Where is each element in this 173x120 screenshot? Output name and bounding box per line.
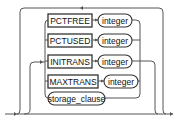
value-initrans: integer xyxy=(102,57,128,67)
value-pctfree: integer xyxy=(102,16,128,26)
entry-arrow-icon xyxy=(14,112,17,116)
entry-path xyxy=(24,62,45,114)
exit-arrow-icon xyxy=(170,112,173,116)
initrans-exit-path xyxy=(132,61,158,114)
row-pctused: PCTUSED integer xyxy=(48,34,132,47)
row-storage-clause: storage_clause xyxy=(48,92,106,105)
keyword-pctfree: PCTFREE xyxy=(50,16,90,26)
value-maxtrans: integer xyxy=(108,77,134,87)
row-initrans: INITRANS integer xyxy=(48,55,132,68)
keyword-initrans: INITRANS xyxy=(50,57,90,67)
value-pctused: integer xyxy=(102,36,128,46)
syntax-diagram: PCTFREE integer PCTUSED integer INITRANS… xyxy=(0,0,173,120)
keyword-pctused: PCTUSED xyxy=(50,36,91,46)
loop-arrow-icon xyxy=(80,6,83,10)
storage-clause-label: storage_clause xyxy=(48,94,106,104)
row-maxtrans: MAXTRANS integer xyxy=(48,75,138,88)
entry-branch-arrow-icon xyxy=(40,60,43,64)
row-pctfree: PCTFREE integer xyxy=(48,14,132,27)
keyword-maxtrans: MAXTRANS xyxy=(49,77,97,87)
